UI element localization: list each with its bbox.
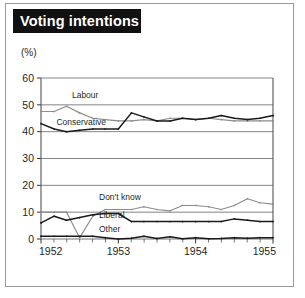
data-point <box>131 221 133 223</box>
data-point <box>66 219 68 221</box>
data-point <box>259 202 261 204</box>
data-point <box>53 211 55 213</box>
data-point <box>79 129 81 131</box>
data-point <box>169 117 171 119</box>
data-point <box>53 235 55 237</box>
series-label: Liberal <box>99 210 125 220</box>
plot-area: 0102030405060 1952195319541955 LabourCon… <box>6 4 295 288</box>
data-point <box>156 120 158 122</box>
data-point <box>182 117 184 119</box>
data-point <box>53 215 55 217</box>
y-tick-label: 0 <box>28 233 34 245</box>
data-point <box>66 105 68 107</box>
data-point <box>40 111 42 113</box>
data-point <box>195 237 197 239</box>
data-point <box>169 236 171 238</box>
data-point <box>247 219 249 221</box>
y-axis-ticks-group: 0102030405060 <box>22 72 41 245</box>
y-tick-label: 30 <box>22 152 34 164</box>
series-label: Conservative <box>56 117 106 127</box>
data-point <box>131 209 133 211</box>
x-tick-label: 1955 <box>253 245 277 257</box>
data-point <box>272 203 274 205</box>
data-point <box>131 112 133 114</box>
y-tick-label: 40 <box>22 125 34 137</box>
data-point <box>143 235 145 237</box>
data-point <box>182 238 184 240</box>
data-point <box>247 119 249 121</box>
data-point <box>40 123 42 125</box>
data-point <box>53 111 55 113</box>
data-point <box>79 235 81 237</box>
data-point <box>40 222 42 224</box>
data-point <box>92 128 94 130</box>
data-point <box>66 235 68 237</box>
x-tick-label: 1952 <box>39 245 63 257</box>
data-point <box>104 128 106 130</box>
y-tick-label: 20 <box>22 179 34 191</box>
data-point <box>259 120 261 122</box>
x-tick-label: 1953 <box>107 245 131 257</box>
data-point <box>195 205 197 207</box>
data-point <box>247 198 249 200</box>
data-point <box>131 120 133 122</box>
x-tick-label: 1954 <box>184 245 208 257</box>
data-point <box>66 211 68 213</box>
data-point <box>272 221 274 223</box>
data-point <box>156 221 158 223</box>
x-axis-ticks-group: 1952195319541955 <box>39 239 276 257</box>
figure-panel: Voting intentions (%) 0102030405060 1952… <box>5 3 294 287</box>
data-point <box>220 238 222 240</box>
data-point <box>131 237 133 239</box>
data-point <box>117 128 119 130</box>
data-point <box>259 237 261 239</box>
data-point <box>259 221 261 223</box>
data-point <box>169 210 171 212</box>
data-point <box>195 221 197 223</box>
data-point <box>79 112 81 114</box>
data-point <box>247 237 249 239</box>
data-point <box>233 120 235 122</box>
data-point <box>79 217 81 219</box>
data-point <box>220 209 222 211</box>
data-point <box>182 221 184 223</box>
data-point <box>40 211 42 213</box>
y-tick-label: 50 <box>22 99 34 111</box>
gridlines-group <box>41 78 273 239</box>
data-point <box>92 235 94 237</box>
data-point <box>143 119 145 121</box>
data-point <box>182 205 184 207</box>
data-point <box>220 119 222 121</box>
data-point <box>208 221 210 223</box>
data-point <box>53 128 55 130</box>
data-point <box>143 221 145 223</box>
data-point <box>156 209 158 211</box>
series-label: Labour <box>72 90 99 100</box>
data-point <box>272 115 274 117</box>
data-point <box>143 116 145 118</box>
data-point <box>117 238 119 240</box>
y-tick-label: 10 <box>22 206 34 218</box>
data-point <box>233 205 235 207</box>
data-point <box>220 221 222 223</box>
data-point <box>208 117 210 119</box>
data-point <box>195 119 197 121</box>
series-label: Don't know <box>99 192 142 202</box>
data-point <box>272 237 274 239</box>
data-point <box>169 120 171 122</box>
data-point <box>233 237 235 239</box>
series-label: Other <box>99 224 120 234</box>
line-chart-svg: 0102030405060 1952195319541955 LabourCon… <box>6 4 295 288</box>
data-point <box>66 131 68 133</box>
data-point <box>208 238 210 240</box>
data-point <box>259 117 261 119</box>
data-point <box>104 237 106 239</box>
data-point <box>92 214 94 216</box>
data-point <box>169 221 171 223</box>
data-point <box>40 235 42 237</box>
data-point <box>208 206 210 208</box>
data-point <box>233 218 235 220</box>
data-point <box>272 120 274 122</box>
data-point <box>143 206 145 208</box>
data-point <box>156 238 158 240</box>
